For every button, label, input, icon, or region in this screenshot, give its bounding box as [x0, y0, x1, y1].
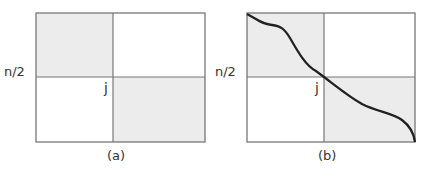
- y-label-b: n/2: [215, 64, 236, 79]
- point-label-a: j: [104, 80, 108, 96]
- y-label-a: n/2: [4, 64, 25, 79]
- diagram-canvas: [0, 0, 421, 171]
- panel-a: [36, 13, 205, 142]
- point-label-b: j: [315, 80, 319, 96]
- panel-b: [247, 13, 415, 142]
- caption-b: (b): [318, 148, 336, 163]
- shaded-quadrant-bottom-right: [113, 77, 205, 142]
- caption-a: (a): [107, 148, 125, 163]
- shaded-quadrant-top-left: [36, 13, 113, 77]
